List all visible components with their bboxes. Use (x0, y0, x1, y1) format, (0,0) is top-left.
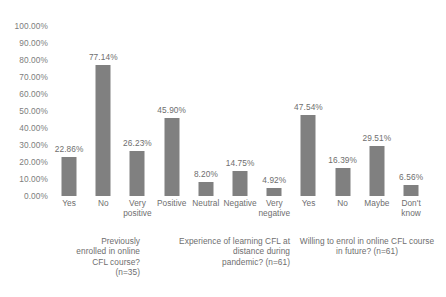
category-label-line: negative (257, 209, 291, 219)
bar-value-label: 6.56% (399, 173, 423, 182)
y-tick-label: 50.00% (19, 107, 48, 116)
group-captions: Previouslyenrolled in onlineCFL course?(… (0, 236, 446, 294)
group-caption-previously-enrolled: Previouslyenrolled in onlineCFL course?(… (8, 236, 140, 278)
bar-slot: 6.56% (394, 26, 428, 196)
y-tick-label: 70.00% (19, 73, 48, 82)
category-axis: YesNoVerypositivePositiveNeutralNegative… (52, 199, 446, 229)
bar-value-label: 77.14% (89, 53, 118, 62)
bar-value-label: 14.75% (226, 159, 255, 168)
category-label: Neutral (189, 199, 223, 209)
bar[interactable] (62, 157, 77, 196)
y-tick-label: 30.00% (19, 141, 48, 150)
bar-value-label: 4.92% (262, 176, 286, 185)
bar-slot: 77.14% (86, 26, 120, 196)
group-caption-willing-to-enrol: Willing to enrol in online CFL coursein … (292, 236, 442, 257)
category-label: Verypositive (120, 199, 154, 218)
category-label: No (326, 199, 360, 209)
category-label: No (86, 199, 120, 209)
bar[interactable] (335, 168, 350, 196)
bar-slot: 22.86% (52, 26, 86, 196)
category-label-line: No (326, 199, 360, 209)
category-label: Negative (223, 199, 257, 209)
bar-slot: 16.39% (326, 26, 360, 196)
bar-slot: 14.75% (223, 26, 257, 196)
bar[interactable] (198, 182, 213, 196)
y-tick-label: 20.00% (19, 158, 48, 167)
y-tick-label: 40.00% (19, 124, 48, 133)
bar[interactable] (369, 146, 384, 196)
bar-value-label: 26.23% (123, 139, 152, 148)
bar-slot: 47.54% (291, 26, 325, 196)
bar[interactable] (233, 171, 248, 196)
category-label-line: positive (120, 209, 154, 219)
category-label: Positive (155, 199, 189, 209)
bar-value-label: 22.86% (55, 145, 84, 154)
bar-slot: 4.92% (257, 26, 291, 196)
bar[interactable] (301, 115, 316, 196)
category-label: Maybe (360, 199, 394, 209)
bar-value-label: 45.90% (157, 106, 186, 115)
bar-value-label: 47.54% (294, 103, 323, 112)
bar-value-label: 16.39% (328, 156, 357, 165)
category-label: Don'tknow (394, 199, 428, 218)
bar-value-label: 8.20% (194, 170, 218, 179)
category-label-line: Yes (291, 199, 325, 209)
bar-chart: 0.00%10.00%20.00%30.00%40.00%50.00%60.00… (0, 0, 446, 297)
bar[interactable] (267, 188, 282, 196)
category-label-line: Yes (52, 199, 86, 209)
bar[interactable] (164, 118, 179, 196)
y-tick-label: 80.00% (19, 56, 48, 65)
bar-slot: 29.51% (360, 26, 394, 196)
y-tick-label: 100.00% (15, 22, 48, 31)
category-label-line: Maybe (360, 199, 394, 209)
y-tick-label: 90.00% (19, 39, 48, 48)
group-caption-experience-learning: Experience of learning CFL atdistance du… (142, 236, 290, 267)
bar[interactable] (404, 185, 419, 196)
category-label-line: Negative (223, 199, 257, 209)
bar-slot: 45.90% (155, 26, 189, 196)
y-tick-label: 60.00% (19, 90, 48, 99)
category-label-line: Positive (155, 199, 189, 209)
plot-area: 22.86%77.14%26.23%45.90%8.20%14.75%4.92%… (52, 26, 446, 196)
y-tick-label: 10.00% (19, 175, 48, 184)
bar-slot: 26.23% (120, 26, 154, 196)
y-axis: 0.00%10.00%20.00%30.00%40.00%50.00%60.00… (0, 0, 52, 210)
category-label-line: know (394, 209, 428, 219)
category-label: Verynegative (257, 199, 291, 218)
bar-slot: 8.20% (189, 26, 223, 196)
category-label-line: No (86, 199, 120, 209)
bar-value-label: 29.51% (363, 134, 392, 143)
category-label: Yes (291, 199, 325, 209)
category-label: Yes (52, 199, 86, 209)
bar[interactable] (96, 65, 111, 196)
category-label-line: Neutral (189, 199, 223, 209)
y-tick-label: 0.00% (24, 192, 48, 201)
bar[interactable] (130, 151, 145, 196)
